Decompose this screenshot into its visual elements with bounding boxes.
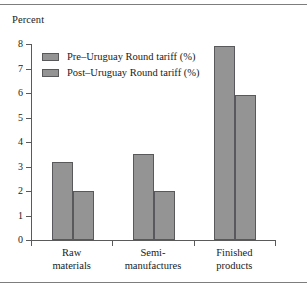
bar	[154, 191, 175, 240]
y-axis-tick-label: 8	[18, 39, 23, 49]
y-axis-tick-label: 2	[18, 186, 23, 196]
legend-item-post: Post–Uruguay Round tariff (%)	[42, 66, 222, 80]
legend-swatch-icon-post	[42, 69, 59, 77]
x-axis-category-label-line: Semi-	[112, 246, 193, 259]
y-axis-tick-label: 7	[18, 64, 23, 74]
bar	[133, 154, 154, 240]
x-axis-category-label: Finishedproducts	[194, 246, 275, 272]
x-axis-category-label-line: materials	[31, 259, 112, 272]
bar	[235, 95, 256, 240]
y-axis-tick-label: 5	[18, 113, 23, 123]
x-axis-category-label-line: manufactures	[112, 259, 193, 272]
y-axis-tick-label: 0	[18, 235, 23, 245]
legend-label-post: Post–Uruguay Round tariff (%)	[67, 67, 200, 79]
y-axis-title: Percent	[12, 14, 44, 25]
top-divider-rule	[0, 4, 307, 5]
x-axis-category-label: Rawmaterials	[31, 246, 112, 272]
y-axis-tick-label: 6	[18, 88, 23, 98]
x-axis-category-labels: RawmaterialsSemi-manufacturesFinishedpro…	[31, 246, 276, 282]
x-axis-category-label-line: Raw	[31, 246, 112, 259]
chart-figure: Percent 012345678 RawmaterialsSemi-manuf…	[0, 0, 307, 289]
x-axis-line	[31, 240, 276, 241]
chart-legend: Pre–Uruguay Round tariff (%) Post–Urugua…	[42, 50, 222, 82]
y-axis-tick-label: 1	[18, 211, 23, 221]
y-axis-tick-label: 3	[18, 162, 23, 172]
bar	[52, 162, 73, 240]
x-axis-category-label-line: products	[194, 259, 275, 272]
legend-item-pre: Pre–Uruguay Round tariff (%)	[42, 50, 222, 64]
x-axis-category-label: Semi-manufactures	[112, 246, 193, 272]
bar	[73, 191, 94, 240]
y-axis-tick-label: 4	[18, 137, 23, 147]
bottom-divider-rule	[0, 282, 307, 283]
legend-swatch-icon-pre	[42, 53, 59, 61]
legend-label-pre: Pre–Uruguay Round tariff (%)	[67, 51, 195, 63]
x-axis-category-label-line: Finished	[194, 246, 275, 259]
